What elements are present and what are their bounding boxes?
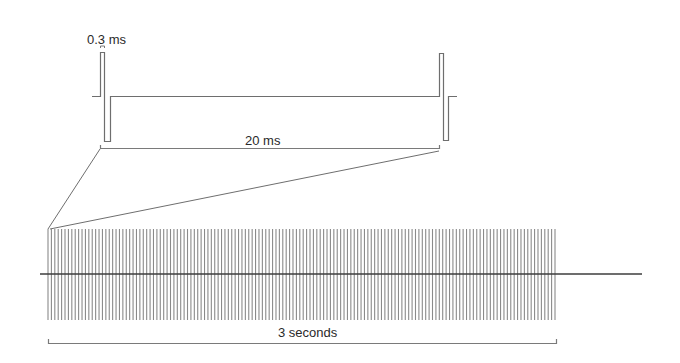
zoom-guide-lines <box>48 149 439 229</box>
pulse-detail-waveform <box>92 53 457 142</box>
pulse-width-label: 0.3 ms <box>87 33 126 46</box>
stimulation-waveform-diagram <box>0 0 680 363</box>
train-duration-label: 3 seconds <box>278 326 337 339</box>
interpulse-interval-label: 20 ms <box>245 134 280 147</box>
